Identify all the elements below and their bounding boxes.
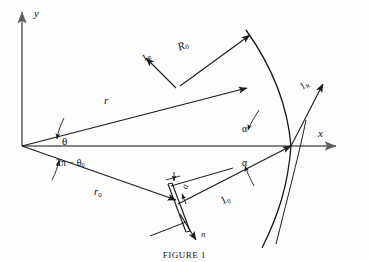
angle-2pi-theta0-label: 2π − θ0 [56, 158, 85, 169]
angle-leader-alpha-upper [248, 110, 259, 130]
angle-2pi-theta0-symbol: 2π − θ [56, 157, 81, 168]
figure-caption: FIGURE 1 [0, 250, 369, 260]
vector-R0 [180, 35, 250, 86]
angle-leader-alpha-lower [245, 166, 254, 186]
x-axis-label: x [318, 128, 323, 139]
vector-unit-0 [178, 146, 291, 204]
angle-alpha-upper-label: α [242, 124, 247, 134]
dimension-tick-top [166, 176, 180, 180]
aperture-baffle-lower [150, 222, 186, 236]
surface-arc [246, 30, 291, 248]
vector-r0-subscript: 0 [98, 191, 101, 198]
vector-r0-label: r0 [94, 186, 102, 198]
vector-unit-R-upper [146, 58, 176, 88]
angle-theta-label: θ [62, 136, 67, 147]
aperture-plate-front [168, 184, 186, 232]
vector-r-label: r [104, 95, 108, 106]
y-axis-label: y [34, 8, 39, 19]
angle-alpha-lower-label: α [242, 158, 247, 168]
dimension-arrow-bottom [182, 194, 186, 204]
angle-2pi-theta0-subscript: 0 [81, 161, 84, 168]
secondary-ray [276, 120, 306, 244]
aperture-cap-bottom [186, 231, 190, 232]
vector-normal [180, 214, 196, 240]
figure-container: y x r R0 1R 1R θ 2π − θ0 r0 10 α α a n F… [0, 0, 369, 262]
vector-normal-label: n [201, 230, 206, 239]
vector-r [22, 88, 247, 146]
aperture-cap-top [168, 183, 172, 184]
